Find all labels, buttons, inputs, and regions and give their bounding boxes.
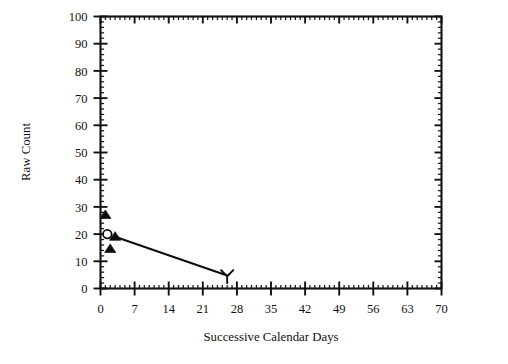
x-tick-label: 35	[265, 302, 278, 316]
y-tick-label: 80	[75, 65, 88, 79]
y-tick-label: 10	[75, 255, 88, 269]
plot-frame	[101, 17, 442, 289]
data-point-triangle-up-filled	[105, 244, 116, 253]
y-tick-label: 70	[75, 92, 88, 106]
x-tick-label: 0	[97, 302, 103, 316]
trend-line-group	[115, 237, 227, 276]
data-point-wye	[221, 270, 234, 284]
y-tick-label: 50	[75, 146, 88, 160]
x-tick-label: 14	[162, 302, 175, 316]
x-axis-title: Successive Calendar Days	[203, 330, 338, 344]
x-tick-label: 63	[401, 302, 414, 316]
y-tick-label: 100	[69, 10, 88, 24]
x-tick-label: 70	[435, 302, 448, 316]
x-tick-label: 28	[231, 302, 244, 316]
y-tick-label: 30	[75, 201, 88, 215]
y-axis-tick-labels: 0102030405060708090100	[69, 10, 88, 296]
x-tick-label: 56	[367, 302, 380, 316]
y-tick-label: 20	[75, 228, 88, 242]
x-tick-label: 21	[197, 302, 210, 316]
x-axis-tick-labels: 07142128354249566370	[97, 302, 447, 316]
x-tick-label: 7	[131, 302, 137, 316]
y-tick-label: 90	[75, 37, 88, 51]
y-axis-title: Raw Count	[19, 123, 33, 181]
chart-canvas: 0102030405060708090100 07142128354249566…	[0, 0, 508, 364]
data-markers	[100, 210, 234, 284]
x-tick-label: 42	[299, 302, 312, 316]
y-tick-label: 60	[75, 119, 88, 133]
data-point-circle-open	[103, 230, 112, 239]
axis-ticks	[94, 17, 442, 296]
raw-count-scatter-chart: 0102030405060708090100 07142128354249566…	[0, 0, 508, 364]
x-tick-label: 49	[333, 302, 346, 316]
y-tick-label: 0	[81, 282, 87, 296]
trend-line	[115, 237, 227, 276]
y-tick-label: 40	[75, 173, 88, 187]
chart-page: 0102030405060708090100 07142128354249566…	[0, 0, 508, 364]
